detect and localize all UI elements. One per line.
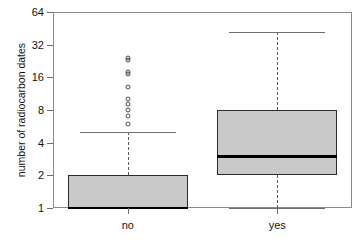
outlier-point [125, 56, 130, 61]
median-yes [217, 155, 337, 158]
box-yes [217, 110, 337, 175]
y-tick-label: 64 [22, 7, 44, 18]
outlier-point [125, 108, 130, 113]
y-axis-tick-labels: 1248163264 [22, 0, 44, 250]
plot-area [53, 12, 352, 208]
outlier-point [125, 102, 130, 107]
cap-upper-yes [229, 32, 325, 33]
outlier-point [125, 69, 130, 74]
x-tick-label-yes: yes [269, 219, 286, 231]
boxplot-chart: number of radiocarbon dates 1248163264 n… [0, 0, 359, 250]
whisker-upper-no [128, 132, 129, 175]
y-tick-label: 1 [22, 203, 44, 214]
y-tick-label: 4 [22, 137, 44, 148]
x-tick-label-no: no [122, 219, 134, 231]
outlier-point [125, 114, 130, 119]
y-tick-label: 32 [22, 39, 44, 50]
box-no [68, 175, 188, 208]
outlier-point [125, 121, 130, 126]
whisker-upper-yes [277, 32, 278, 110]
y-tick-mark [47, 208, 53, 209]
whisker-lower-yes [277, 175, 278, 208]
y-tick-label: 8 [22, 105, 44, 116]
outlier-point [125, 97, 130, 102]
x-tick-mark [277, 208, 278, 214]
outlier-point [125, 85, 130, 90]
x-tick-mark [128, 208, 129, 214]
y-tick-label: 2 [22, 170, 44, 181]
cap-upper-no [80, 132, 176, 133]
y-tick-label: 16 [22, 72, 44, 83]
